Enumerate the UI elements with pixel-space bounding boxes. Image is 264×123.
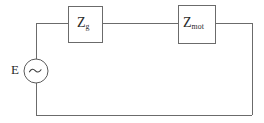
impedance-motor-label-main: Z <box>183 15 192 30</box>
circuit-diagram: E Zg Zmot <box>0 0 264 123</box>
impedance-generator-label: Zg <box>77 16 90 30</box>
impedance-generator-label-sub: g <box>86 22 90 31</box>
impedance-motor-label: Zmot <box>183 16 204 30</box>
impedance-generator-label-main: Z <box>77 15 86 30</box>
impedance-motor-label-sub: mot <box>192 22 204 31</box>
circuit-schematic-svg <box>0 0 264 123</box>
source-label: E <box>11 63 19 76</box>
